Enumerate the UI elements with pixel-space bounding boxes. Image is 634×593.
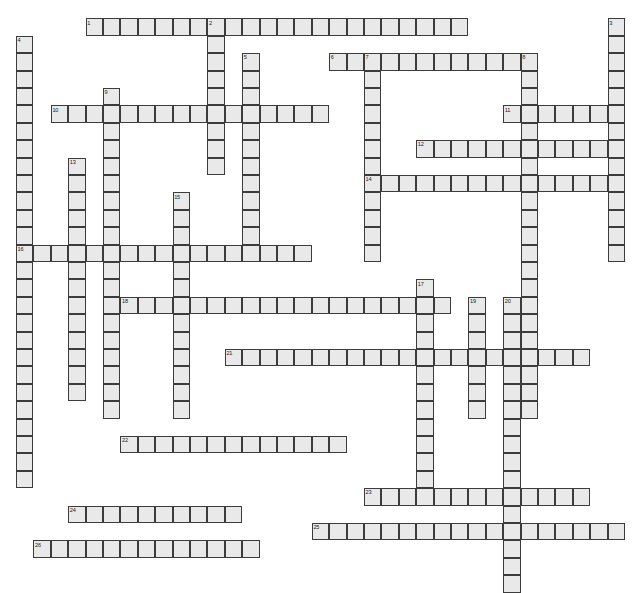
crossword-cell[interactable] (294, 18, 311, 35)
crossword-cell[interactable] (68, 297, 85, 314)
crossword-cell[interactable] (16, 366, 33, 383)
crossword-cell[interactable] (138, 540, 155, 557)
crossword-cell[interactable] (573, 523, 590, 540)
crossword-cell[interactable] (103, 297, 120, 314)
crossword-cell[interactable] (573, 140, 590, 157)
crossword-cell[interactable] (173, 314, 190, 331)
crossword-cell[interactable] (120, 245, 137, 262)
crossword-cell[interactable] (173, 18, 190, 35)
crossword-cell[interactable] (51, 540, 68, 557)
crossword-cell[interactable] (207, 18, 224, 35)
crossword-cell[interactable] (103, 506, 120, 523)
crossword-cell[interactable] (503, 332, 520, 349)
crossword-cell[interactable] (451, 488, 468, 505)
crossword-cell[interactable] (416, 175, 433, 192)
crossword-cell[interactable] (503, 558, 520, 575)
crossword-cell[interactable] (521, 175, 538, 192)
crossword-cell[interactable] (16, 88, 33, 105)
crossword-cell[interactable] (68, 175, 85, 192)
crossword-cell[interactable] (503, 297, 520, 314)
crossword-cell[interactable] (207, 36, 224, 53)
crossword-cell[interactable] (120, 506, 137, 523)
crossword-cell[interactable] (68, 245, 85, 262)
crossword-cell[interactable] (416, 436, 433, 453)
crossword-cell[interactable] (451, 349, 468, 366)
crossword-cell[interactable] (242, 227, 259, 244)
crossword-cell[interactable] (190, 436, 207, 453)
crossword-cell[interactable] (173, 245, 190, 262)
crossword-cell[interactable] (16, 71, 33, 88)
crossword-cell[interactable] (521, 349, 538, 366)
crossword-cell[interactable] (538, 105, 555, 122)
crossword-cell[interactable] (381, 53, 398, 70)
crossword-cell[interactable] (190, 297, 207, 314)
crossword-cell[interactable] (225, 436, 242, 453)
crossword-cell[interactable] (608, 140, 625, 157)
crossword-cell[interactable] (468, 366, 485, 383)
crossword-cell[interactable] (16, 279, 33, 296)
crossword-cell[interactable] (608, 18, 625, 35)
crossword-cell[interactable] (16, 210, 33, 227)
crossword-cell[interactable] (103, 366, 120, 383)
crossword-cell[interactable] (103, 349, 120, 366)
crossword-cell[interactable] (416, 453, 433, 470)
crossword-cell[interactable] (207, 123, 224, 140)
crossword-cell[interactable] (207, 297, 224, 314)
crossword-cell[interactable] (225, 540, 242, 557)
crossword-cell[interactable] (555, 349, 572, 366)
crossword-cell[interactable] (555, 488, 572, 505)
crossword-cell[interactable] (521, 401, 538, 418)
crossword-cell[interactable] (364, 18, 381, 35)
crossword-cell[interactable] (608, 105, 625, 122)
crossword-cell[interactable] (173, 210, 190, 227)
crossword-cell[interactable] (381, 18, 398, 35)
crossword-cell[interactable] (312, 349, 329, 366)
crossword-cell[interactable] (16, 436, 33, 453)
crossword-cell[interactable] (190, 245, 207, 262)
crossword-cell[interactable] (155, 105, 172, 122)
crossword-cell[interactable] (347, 523, 364, 540)
crossword-cell[interactable] (503, 471, 520, 488)
crossword-cell[interactable] (521, 123, 538, 140)
crossword-cell[interactable] (364, 175, 381, 192)
crossword-cell[interactable] (242, 53, 259, 70)
crossword-cell[interactable] (68, 366, 85, 383)
crossword-cell[interactable] (521, 488, 538, 505)
crossword-cell[interactable] (434, 488, 451, 505)
crossword-cell[interactable] (103, 18, 120, 35)
crossword-cell[interactable] (573, 175, 590, 192)
crossword-cell[interactable] (434, 18, 451, 35)
crossword-cell[interactable] (364, 210, 381, 227)
crossword-cell[interactable] (103, 384, 120, 401)
crossword-cell[interactable] (608, 71, 625, 88)
crossword-cell[interactable] (260, 297, 277, 314)
crossword-cell[interactable] (242, 297, 259, 314)
crossword-cell[interactable] (16, 192, 33, 209)
crossword-cell[interactable] (103, 332, 120, 349)
crossword-cell[interactable] (364, 140, 381, 157)
crossword-cell[interactable] (590, 140, 607, 157)
crossword-cell[interactable] (416, 366, 433, 383)
crossword-cell[interactable] (277, 105, 294, 122)
crossword-cell[interactable] (434, 523, 451, 540)
crossword-cell[interactable] (294, 105, 311, 122)
crossword-cell[interactable] (503, 140, 520, 157)
crossword-cell[interactable] (68, 332, 85, 349)
crossword-cell[interactable] (207, 506, 224, 523)
crossword-cell[interactable] (138, 297, 155, 314)
crossword-cell[interactable] (486, 175, 503, 192)
crossword-cell[interactable] (155, 506, 172, 523)
crossword-cell[interactable] (590, 523, 607, 540)
crossword-cell[interactable] (468, 384, 485, 401)
crossword-cell[interactable] (16, 471, 33, 488)
crossword-cell[interactable] (416, 279, 433, 296)
crossword-cell[interactable] (451, 523, 468, 540)
crossword-cell[interactable] (242, 71, 259, 88)
crossword-cell[interactable] (503, 523, 520, 540)
crossword-cell[interactable] (573, 349, 590, 366)
crossword-cell[interactable] (503, 175, 520, 192)
crossword-cell[interactable] (242, 140, 259, 157)
crossword-cell[interactable] (364, 488, 381, 505)
crossword-cell[interactable] (16, 140, 33, 157)
crossword-cell[interactable] (555, 175, 572, 192)
